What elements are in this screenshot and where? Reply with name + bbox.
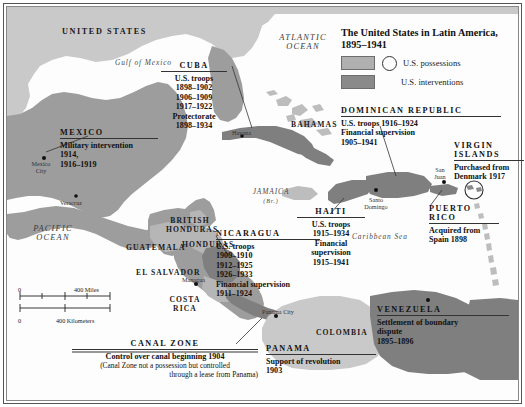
scale-bar: 0 400 Miles 0 400 Kilometers <box>18 286 114 315</box>
scale-km-label: 400 Kilometers <box>56 317 94 324</box>
region-label-guatemala: GUATEMALA <box>126 243 186 252</box>
callout-canal-zone: CANAL ZONE Control over canal beginning … <box>72 339 258 379</box>
legend-circle-possessions <box>382 56 397 71</box>
callout-canal-zone-note: (Canal Zone not a possession but control… <box>72 361 258 379</box>
callout-cuba-body: U.S. troops 1898–1902 1906–1909 1917–192… <box>161 74 227 132</box>
map-title-line2: 1895–1941 <box>341 39 517 51</box>
region-label-united-states: UNITED STATES <box>62 27 147 36</box>
scale-miles-zero: 0 <box>18 286 21 293</box>
legend-swatch-possessions <box>341 56 375 70</box>
water-label-pacific-ocean: PACIFICOCEAN <box>22 224 84 242</box>
callout-mexico-head: MEXICO <box>60 128 158 139</box>
region-label-british-honduras: BRITISHHONDURAS <box>166 216 214 234</box>
city-label-mexico-city: MexicoCity <box>24 160 58 174</box>
callout-dominican-republic-head: DOMINICAN REPUBLIC <box>341 106 501 117</box>
callout-canal-zone-head: CANAL ZONE <box>72 339 258 350</box>
scale-bar-km-row: 0 400 Kilometers <box>18 306 114 315</box>
callout-nicaragua-body: U.S. troops 1909–1910 1912–1925 1926–193… <box>216 242 320 300</box>
callout-virgin-islands-body: Purchased from Denmark 1917 <box>454 163 524 182</box>
callout-virgin-islands: VIRGINISLANDS Purchased from Denmark 191… <box>454 141 524 182</box>
city-label-san-juan: SanJuan <box>428 166 452 180</box>
map-title-line1: The United States in Latin America, <box>341 27 517 39</box>
callout-haiti-head: HAITI <box>297 207 365 218</box>
callout-virgin-islands-head: VIRGINISLANDS <box>454 141 524 161</box>
city-label-veracruz: Veracruz <box>60 199 82 206</box>
region-label-jamaica: JAMAICA(Br.) <box>244 187 298 205</box>
city-label-panama-city: Panama City <box>262 308 294 315</box>
callout-puerto-rico-body: Acquired from Spain 1898 <box>429 226 499 245</box>
region-label-costa-rica: COSTARICA <box>168 295 202 313</box>
map-title-and-legend: The United States in Latin America, 1895… <box>341 27 517 89</box>
callout-venezuela-head: VENEZUELA <box>377 305 509 316</box>
callout-nicaragua: NICARAGUA U.S. troops 1909–1910 1912–192… <box>216 229 320 299</box>
map-figure: The United States in Latin America, 1895… <box>0 0 525 407</box>
city-label-havana: Havana <box>232 129 251 136</box>
callout-cuba-head: CUBA <box>161 61 227 72</box>
callout-panama-body: Support of revolution 1903 <box>266 357 376 376</box>
callout-puerto-rico-head: PUERTORICO <box>429 204 499 224</box>
callout-panama-head: PANAMA <box>266 344 376 355</box>
scale-miles-label: 400 Miles <box>74 286 99 293</box>
callout-cuba: CUBA U.S. troops 1898–1902 1906–1909 191… <box>161 61 227 131</box>
callout-mexico-body: Military intervention 1914, 1916–1919 <box>60 141 158 170</box>
callout-venezuela-body: Settlement of boundary dispute 1895–1896 <box>377 318 509 347</box>
callout-venezuela: VENEZUELA Settlement of boundary dispute… <box>377 305 509 346</box>
water-label-atlantic-ocean: ATLANTICOCEAN <box>272 33 334 51</box>
scale-bar-miles-row: 0 400 Miles <box>18 286 114 295</box>
legend-label-interventions: U.S. interventions <box>401 77 463 87</box>
callout-nicaragua-head: NICARAGUA <box>216 229 320 240</box>
city-label-managua: Managua <box>182 276 205 283</box>
region-label-bahamas: BAHAMAS <box>291 120 338 129</box>
legend-row-possessions: U.S. possessions <box>341 56 517 71</box>
scale-km-zero: 0 <box>18 317 21 324</box>
legend-swatch-interventions <box>341 75 375 89</box>
callout-panama: PANAMA Support of revolution 1903 <box>266 344 376 376</box>
legend-label-possessions: U.S. possessions <box>403 58 461 68</box>
callout-mexico: MEXICO Military intervention 1914, 1916–… <box>60 128 158 169</box>
callout-puerto-rico: PUERTORICO Acquired from Spain 1898 <box>429 204 499 245</box>
callout-canal-zone-body: Control over canal beginning 1904 <box>72 352 258 362</box>
legend-row-interventions: U.S. interventions <box>341 75 517 89</box>
region-label-colombia: COLOMBIA <box>316 328 368 337</box>
